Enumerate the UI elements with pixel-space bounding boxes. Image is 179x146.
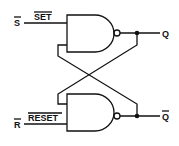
nand-gate-bottom [67,94,114,131]
s-input-label: S [14,18,20,28]
qbar-output-label: Q [162,112,169,122]
inversion-bubble-top [114,30,120,36]
set-label: SET [34,12,52,22]
feedback-qbar-to-top-gate [58,45,137,116]
inversion-bubble-bottom [114,113,120,119]
q-output-label: Q [162,29,169,39]
sr-latch-diagram: S SET R RESET Q Q [0,0,179,146]
r-input-label: R [14,120,21,130]
reset-label: RESET [28,113,59,123]
nand-gate-top [67,15,114,52]
